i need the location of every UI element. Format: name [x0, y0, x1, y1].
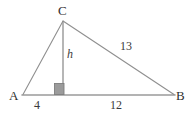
- geometry-figure: C A B 4 12 13 h: [0, 0, 194, 118]
- altitude-label-h: h: [67, 48, 73, 60]
- vertex-label-b: B: [176, 89, 185, 102]
- triangle-diagram-svg: [0, 0, 194, 118]
- side-line-cb: [63, 21, 174, 95]
- segment-length-label-13: 13: [120, 40, 132, 52]
- segment-length-label-4: 4: [34, 99, 40, 111]
- vertex-label-a: A: [9, 89, 18, 102]
- vertex-label-c: C: [58, 4, 67, 17]
- segment-length-label-12: 12: [110, 99, 122, 111]
- right-angle-square-icon: [55, 84, 65, 95]
